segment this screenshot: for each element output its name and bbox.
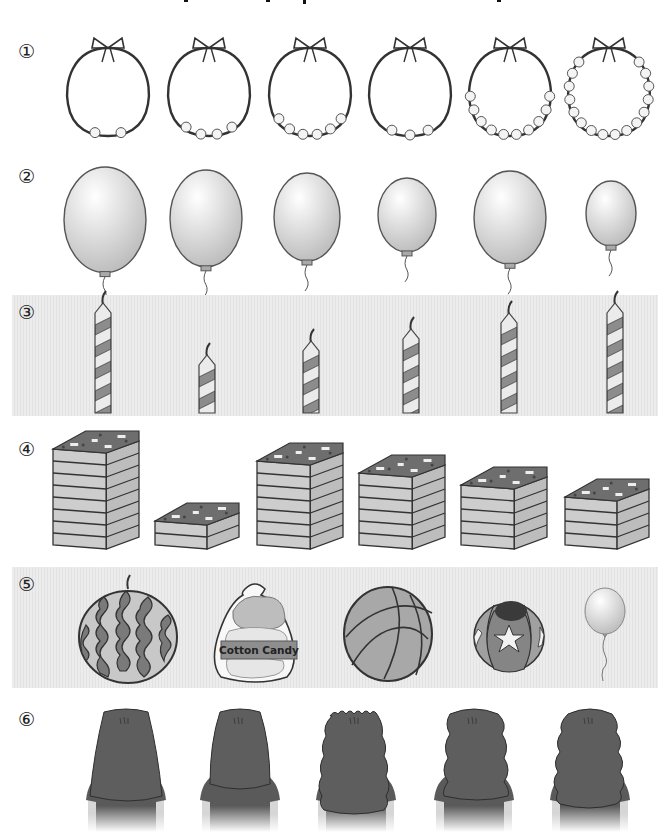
row-number: ⑤	[18, 573, 35, 595]
cake-stack-icon[interactable]	[564, 478, 650, 554]
balloon-icon[interactable]	[472, 169, 548, 305]
balloon-icon[interactable]	[584, 179, 638, 283]
necklace-icon[interactable]	[163, 34, 255, 144]
row-number: ③	[18, 301, 35, 323]
hair-style-icon[interactable]	[314, 708, 398, 832]
necklace-icon[interactable]	[62, 34, 154, 144]
row-number: ④	[18, 438, 35, 460]
necklace-icon[interactable]	[364, 34, 456, 144]
cotton-candy-label: Cotton Candy	[219, 644, 299, 656]
candle-icon[interactable]	[92, 289, 114, 413]
balloon-icon[interactable]	[583, 587, 627, 683]
row-number: ⑥	[18, 708, 35, 730]
row-hair-styles: ⑥	[0, 700, 664, 824]
basketball-icon[interactable]	[342, 585, 434, 683]
hair-style-icon[interactable]	[432, 708, 516, 832]
cake-stack-icon[interactable]	[358, 454, 446, 554]
necklace-icon[interactable]	[563, 34, 655, 144]
page-title-fragment	[0, 0, 664, 4]
necklace-icon[interactable]	[464, 34, 556, 144]
row-necklaces: ①	[0, 30, 664, 145]
cake-stack-icon[interactable]	[154, 502, 240, 554]
cotton-candy-icon[interactable]: Cotton Candy	[207, 579, 303, 685]
candle-icon[interactable]	[400, 315, 422, 413]
hair-style-icon[interactable]	[198, 708, 282, 832]
candle-icon[interactable]	[498, 299, 520, 413]
row-number: ①	[18, 40, 35, 62]
balloon-icon[interactable]	[376, 176, 438, 290]
cake-stack-icon[interactable]	[52, 430, 140, 554]
row-round-objects: ⑤ Cotton Candy	[0, 567, 664, 689]
watermelon-icon[interactable]	[76, 575, 180, 685]
star-ball-icon[interactable]	[472, 597, 546, 673]
candle-icon[interactable]	[604, 289, 626, 413]
row-balloons: ②	[0, 155, 664, 285]
balloon-icon[interactable]	[168, 168, 244, 308]
cake-stack-icon[interactable]	[256, 442, 344, 554]
row-number: ②	[18, 165, 35, 187]
hair-style-icon[interactable]	[84, 708, 168, 832]
cake-stack-icon[interactable]	[460, 466, 548, 554]
hair-style-icon[interactable]	[548, 708, 632, 832]
balloon-icon[interactable]	[272, 171, 342, 301]
necklace-icon[interactable]	[264, 34, 356, 144]
candle-icon[interactable]	[196, 341, 218, 413]
candle-icon[interactable]	[300, 327, 322, 413]
row-cakes: ④	[0, 430, 664, 555]
row-candles: ③	[0, 295, 664, 417]
